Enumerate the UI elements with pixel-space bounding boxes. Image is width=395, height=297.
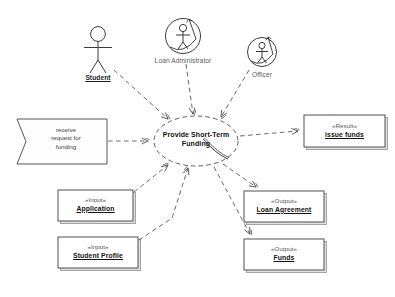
artifact-loan-agreement: «Output» Loan Agreement: [244, 197, 324, 214]
artifact-stereotype: «Result»: [304, 122, 385, 130]
use-case-title-line2: Funding: [182, 140, 210, 147]
artifact-name: issue funds: [304, 131, 385, 139]
use-case-title-line1: Provide Short-Term: [163, 131, 230, 138]
connector-student-profile-to-usecase: [139, 168, 188, 240]
use-case-title: Provide Short-Term Funding: [146, 130, 246, 148]
trigger-label-line1: receive: [56, 126, 76, 133]
trigger-label-line3: funding: [56, 143, 76, 150]
artifact-stereotype: «Output»: [244, 245, 324, 253]
artifact-stereotype: «Input»: [58, 243, 138, 251]
artifact-student-profile: «Input» Student Profile: [58, 243, 138, 260]
artifact-name: Application: [58, 205, 133, 213]
connector-usecase-to-issue-funds: [240, 131, 298, 136]
artifact-name: Loan Agreement: [244, 206, 324, 214]
artifact-issue-funds: «Result» issue funds: [304, 122, 385, 139]
connector-officer-to-usecase: [221, 70, 249, 117]
artifact-application: «Input» Application: [58, 196, 133, 213]
artifact-name: Student Profile: [58, 252, 138, 260]
connector-student-to-usecase: [114, 70, 168, 119]
trigger-label: receive request for funding: [30, 126, 102, 151]
circled-stick-figure-icon-officer: [248, 37, 277, 67]
stick-figure-icon-student: [84, 27, 112, 73]
circled-stick-figure-icon-loan-administrator: [166, 19, 201, 54]
artifact-name: Funds: [244, 254, 324, 262]
artifact-stereotype: «Output»: [244, 197, 324, 205]
connector-loan-administrator-to-usecase: [186, 64, 193, 114]
connector-application-to-usecase: [134, 165, 168, 192]
diagram-canvas: Student Loan Administrator Officer Provi…: [0, 0, 395, 297]
connector-usecase-to-loan-agreement: [223, 164, 256, 187]
artifact-stereotype: «Input»: [58, 196, 133, 204]
artifact-funds: «Output» Funds: [244, 245, 324, 262]
trigger-label-line2: request for: [51, 134, 81, 141]
